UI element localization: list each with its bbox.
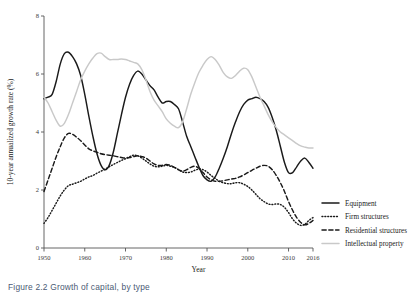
x-tick-label: 1990	[201, 254, 214, 261]
legend-label-intellectual-property: Intellectual property	[345, 240, 404, 248]
y-tick-label: 6	[36, 70, 40, 77]
capital-growth-chart: 024681950196019701980199020002010201610-…	[0, 0, 420, 292]
legend-label-residential-structures: Residential structures	[345, 227, 407, 235]
x-tick-label: 2000	[241, 254, 254, 261]
x-tick-label: 1950	[38, 254, 51, 261]
x-tick-label: 1970	[119, 254, 132, 261]
y-tick-label: 8	[36, 12, 39, 19]
figure-caption: Figure 2.2 Growth of capital, by type	[8, 282, 150, 292]
x-tick-label: 1960	[78, 254, 91, 261]
x-tick-label: 1980	[160, 254, 173, 261]
x-axis-title: Year	[192, 265, 206, 274]
series-line-intellectual-property	[44, 53, 313, 148]
x-tick-label: 2010	[282, 254, 295, 261]
legend-label-firm-structures: Firm structures	[345, 213, 389, 221]
y-tick-label: 0	[36, 244, 39, 251]
series-line-firm-structures	[44, 155, 313, 225]
x-tick-label: 2016	[307, 254, 321, 261]
figure-container: 024681950196019701980199020002010201610-…	[0, 0, 420, 292]
y-axis-title: 10-year annualized growth rate (%)	[6, 78, 15, 185]
y-tick-label: 4	[36, 128, 40, 135]
legend-label-equipment: Equipment	[345, 200, 377, 208]
y-tick-label: 2	[36, 186, 39, 193]
